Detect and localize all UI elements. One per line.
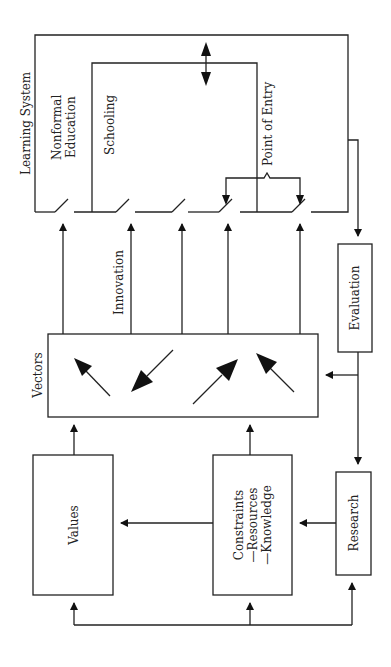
resources-label: —Resources <box>246 488 260 563</box>
learning-system-frame <box>35 35 348 212</box>
innovation-arrows <box>63 224 300 334</box>
schooling-label: Schooling <box>103 94 117 155</box>
nonformal-label-1: Nonformal <box>50 95 64 160</box>
constraints-label: Constraints <box>232 490 246 561</box>
point-of-entry-label: Point of Entry <box>261 81 275 166</box>
knowledge-label: —Knowledge <box>260 485 274 565</box>
research-label: Research <box>347 494 361 551</box>
values-label: Values <box>67 505 81 546</box>
innovation-label: Innovation <box>112 250 126 315</box>
learning-system-diagram: Learning System Nonformal Education Scho… <box>0 0 391 667</box>
evaluation-connector <box>348 140 358 236</box>
double-arrow-icon <box>201 42 211 86</box>
vectors-label: Vectors <box>31 352 45 398</box>
evaluation-label: Evaluation <box>348 265 362 330</box>
nonformal-label-2: Education <box>64 96 78 158</box>
learning-system-label: Learning System <box>19 71 33 175</box>
point-of-entry-brace <box>222 173 304 205</box>
